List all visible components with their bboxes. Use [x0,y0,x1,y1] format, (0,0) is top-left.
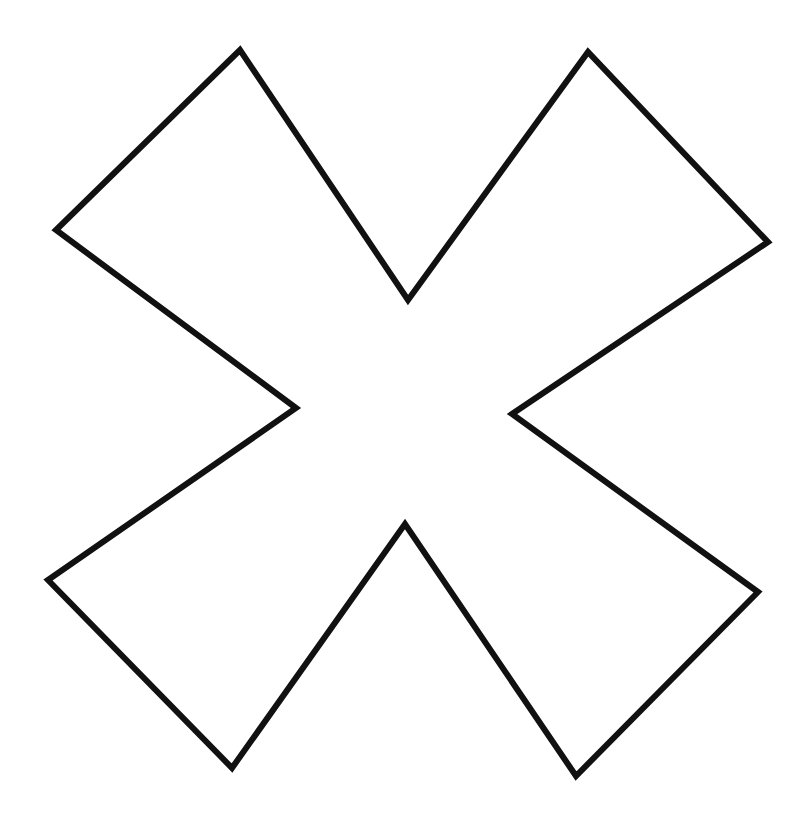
drawing-canvas [0,0,807,828]
x-cross-shape [48,50,768,776]
